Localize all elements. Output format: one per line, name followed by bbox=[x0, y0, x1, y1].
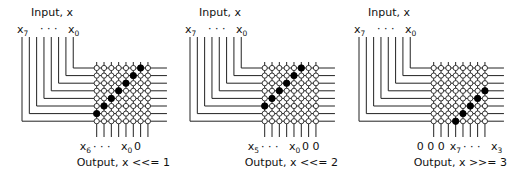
closed-switch-node bbox=[108, 95, 114, 101]
output-label: x3 bbox=[491, 140, 503, 155]
open-switch-node bbox=[468, 96, 473, 101]
open-switch-node bbox=[109, 103, 114, 108]
open-switch-node bbox=[138, 111, 143, 116]
open-switch-node bbox=[109, 119, 114, 124]
open-switch-node bbox=[438, 119, 443, 124]
open-switch-node bbox=[94, 81, 99, 86]
open-switch-node bbox=[482, 96, 487, 101]
input-ellipsis: · · · bbox=[40, 22, 57, 35]
closed-switch-node bbox=[123, 80, 129, 86]
open-switch-node bbox=[453, 96, 458, 101]
open-switch-node bbox=[123, 103, 128, 108]
open-switch-node bbox=[138, 103, 143, 108]
closed-switch-node bbox=[262, 103, 268, 109]
open-switch-node bbox=[262, 65, 267, 70]
open-switch-node bbox=[123, 119, 128, 124]
open-switch-node bbox=[262, 119, 267, 124]
open-switch-node bbox=[109, 88, 114, 93]
open-switch-node bbox=[453, 88, 458, 93]
open-switch-node bbox=[284, 73, 289, 78]
open-switch-node bbox=[138, 88, 143, 93]
open-switch-node bbox=[291, 65, 296, 70]
open-switch-node bbox=[313, 111, 318, 116]
open-switch-node bbox=[468, 73, 473, 78]
open-switch-node bbox=[453, 111, 458, 116]
closed-switch-node bbox=[269, 95, 275, 101]
output-label: x5 bbox=[248, 140, 260, 155]
panel-shift-left-2: Input, xx7· · ·x0x5· · ·x00 0Output, x <… bbox=[185, 6, 338, 169]
open-switch-node bbox=[482, 73, 487, 78]
open-switch-node bbox=[306, 73, 311, 78]
open-switch-node bbox=[145, 119, 150, 124]
closed-switch-node bbox=[283, 80, 289, 86]
open-switch-node bbox=[131, 88, 136, 93]
open-switch-node bbox=[475, 81, 480, 86]
closed-switch-node bbox=[101, 103, 107, 109]
open-switch-node bbox=[145, 88, 150, 93]
open-switch-node bbox=[453, 65, 458, 70]
open-switch-node bbox=[101, 111, 106, 116]
open-switch-node bbox=[453, 81, 458, 86]
open-switch-node bbox=[277, 111, 282, 116]
open-switch-node bbox=[277, 119, 282, 124]
open-switch-node bbox=[299, 103, 304, 108]
open-switch-node bbox=[431, 65, 436, 70]
output-label: · · · bbox=[463, 140, 480, 153]
input-label-x0: x0 bbox=[236, 23, 248, 38]
closed-switch-node bbox=[137, 65, 143, 71]
open-switch-node bbox=[306, 65, 311, 70]
open-switch-node bbox=[109, 81, 114, 86]
open-switch-node bbox=[277, 65, 282, 70]
open-switch-node bbox=[131, 119, 136, 124]
open-switch-node bbox=[468, 81, 473, 86]
open-switch-node bbox=[468, 88, 473, 93]
open-switch-node bbox=[438, 73, 443, 78]
open-switch-node bbox=[468, 65, 473, 70]
input-label-x7: x7 bbox=[185, 23, 197, 38]
input-wire bbox=[73, 37, 167, 68]
open-switch-node bbox=[306, 81, 311, 86]
open-switch-node bbox=[109, 111, 114, 116]
open-switch-node bbox=[109, 73, 114, 78]
open-switch-node bbox=[299, 73, 304, 78]
open-switch-node bbox=[313, 96, 318, 101]
open-switch-node bbox=[438, 96, 443, 101]
open-switch-node bbox=[313, 73, 318, 78]
open-switch-node bbox=[277, 73, 282, 78]
open-switch-node bbox=[453, 103, 458, 108]
input-label-x7: x7 bbox=[354, 23, 366, 38]
open-switch-node bbox=[109, 65, 114, 70]
closed-switch-node bbox=[298, 65, 304, 71]
open-switch-node bbox=[131, 65, 136, 70]
input-label-x0: x0 bbox=[405, 23, 417, 38]
open-switch-node bbox=[313, 81, 318, 86]
open-switch-node bbox=[313, 103, 318, 108]
open-switch-node bbox=[460, 73, 465, 78]
open-switch-node bbox=[475, 103, 480, 108]
open-switch-node bbox=[291, 103, 296, 108]
open-switch-node bbox=[138, 81, 143, 86]
open-switch-node bbox=[101, 73, 106, 78]
output-label: x0 bbox=[121, 140, 133, 155]
open-switch-node bbox=[482, 111, 487, 116]
input-label-x0: x0 bbox=[68, 23, 80, 38]
open-switch-node bbox=[291, 119, 296, 124]
output-label: · · · bbox=[93, 140, 110, 153]
open-switch-node bbox=[446, 111, 451, 116]
output-labels: x6· · ·x00 bbox=[80, 140, 141, 155]
open-switch-node bbox=[431, 103, 436, 108]
open-switch-node bbox=[277, 103, 282, 108]
open-switch-node bbox=[284, 96, 289, 101]
output-label: x6 bbox=[80, 140, 92, 155]
open-switch-node bbox=[269, 103, 274, 108]
open-switch-node bbox=[299, 111, 304, 116]
input-title: Input, x bbox=[199, 6, 241, 19]
open-switch-node bbox=[431, 81, 436, 86]
output-title: Output, x >>= 3 bbox=[414, 156, 507, 169]
open-switch-node bbox=[306, 88, 311, 93]
open-switch-node bbox=[116, 81, 121, 86]
input-title: Input, x bbox=[368, 6, 410, 19]
open-switch-node bbox=[446, 73, 451, 78]
open-switch-node bbox=[446, 88, 451, 93]
open-switch-node bbox=[269, 65, 274, 70]
